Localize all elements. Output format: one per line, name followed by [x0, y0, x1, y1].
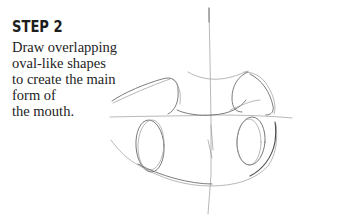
mouth-sketch-illustration: [0, 0, 349, 219]
lower-lip-outline: [111, 122, 277, 186]
lower-lip-ovals: [134, 116, 266, 173]
upper-lip-shapes: [112, 71, 275, 115]
vertical-guideline: [208, 8, 213, 214]
